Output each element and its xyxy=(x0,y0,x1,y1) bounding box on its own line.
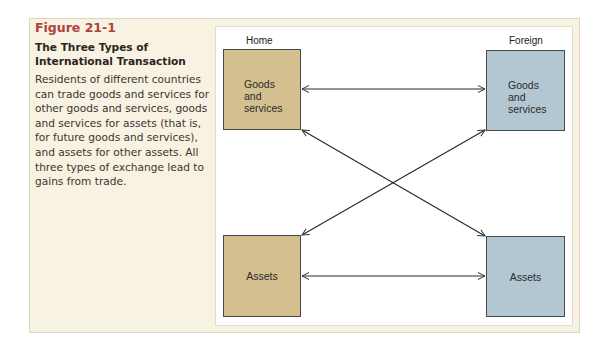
figure-description: Residents of different countries can tra… xyxy=(35,72,210,189)
foreign-assets-box: Assets xyxy=(486,236,565,317)
home-goods-line-1: Goods xyxy=(244,78,304,90)
home-goods-line-2: and xyxy=(244,90,304,102)
foreign-column-label: Foreign xyxy=(509,35,543,46)
foreign-goods-box: Goods and services xyxy=(486,50,565,131)
figure-caption: Figure 21-1 The Three Types of Internati… xyxy=(35,20,210,189)
foreign-goods-line-2: and xyxy=(508,91,568,103)
home-assets-label: Assets xyxy=(224,270,300,282)
figure-number: Figure 21-1 xyxy=(35,20,210,36)
figure-title: The Three Types of International Transac… xyxy=(35,40,210,68)
home-assets-box: Assets xyxy=(223,235,301,317)
home-goods-box: Goods and services xyxy=(223,49,301,130)
foreign-goods-line-1: Goods xyxy=(508,79,568,91)
foreign-assets-label: Assets xyxy=(487,271,564,283)
foreign-goods-line-3: services xyxy=(508,103,568,115)
home-column-label: Home xyxy=(246,35,273,46)
home-goods-line-3: services xyxy=(244,102,304,114)
